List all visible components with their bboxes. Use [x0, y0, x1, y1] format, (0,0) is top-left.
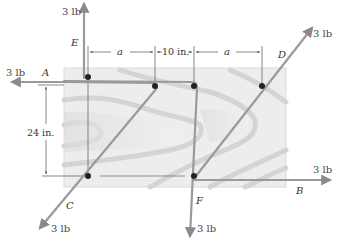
pin [191, 83, 197, 89]
force-C-label: C [66, 200, 74, 211]
pin [191, 173, 197, 179]
dim-a-right: a [224, 46, 230, 57]
dim-a-left: a [117, 46, 123, 57]
force-D-magnitude: 3 lb [313, 28, 332, 39]
dim-10in: 10 in. [162, 46, 189, 57]
force-C-magnitude: 3 lb [51, 223, 70, 234]
force-D-label: D [277, 49, 286, 60]
force-F-label: F [195, 195, 204, 206]
diagram-canvas: a 10 in. a 24 in. 3 lb E 3 [0, 0, 339, 241]
force-B-magnitude: 3 lb [313, 164, 332, 175]
force-A-label: A [41, 67, 49, 78]
dim-24in: 24 in. [27, 127, 54, 138]
force-F-magnitude: 3 lb [197, 223, 216, 234]
force-E-label: E [70, 37, 79, 48]
pin [152, 83, 158, 89]
wood-board [64, 68, 286, 187]
pin [85, 74, 91, 80]
force-B-label: B [295, 185, 303, 196]
force-E-magnitude: 3 lb [62, 6, 81, 17]
pin [259, 83, 265, 89]
pin [85, 173, 91, 179]
force-A-magnitude: 3 lb [6, 67, 25, 78]
